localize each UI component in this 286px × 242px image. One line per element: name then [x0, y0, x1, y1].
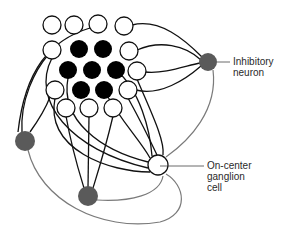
label-line: ganglion — [207, 171, 251, 182]
center-cell — [107, 61, 125, 79]
surround-cell — [43, 16, 61, 34]
surround-cell — [80, 99, 98, 117]
retina-circuit-diagram — [0, 0, 286, 242]
surround-cell — [46, 81, 64, 99]
label-line: cell — [207, 182, 251, 193]
label-line: On-center — [207, 160, 251, 171]
surround-cell — [89, 15, 107, 33]
surround-cell — [128, 62, 146, 80]
ganglion-cell-label: On-center ganglion cell — [207, 160, 251, 193]
center-cell — [70, 40, 88, 58]
inhibitory-neuron-bottom — [78, 186, 98, 206]
surround-cell — [115, 17, 133, 35]
on-center-ganglion-cell — [148, 155, 168, 175]
center-cell — [83, 61, 101, 79]
surround-cell — [120, 42, 138, 60]
center-cell — [72, 81, 90, 99]
leader-lines — [160, 62, 230, 166]
feedback-bottom-to-ganglion — [97, 176, 163, 200]
feedback-right-to-ganglion — [166, 70, 214, 157]
label-line: neuron — [233, 67, 274, 78]
center-cell — [59, 61, 77, 79]
surround-cell — [119, 81, 137, 99]
surround-cell — [57, 99, 75, 117]
surround-cell — [43, 41, 61, 59]
inhibitory-neuron-right — [199, 53, 217, 71]
label-line: Inhibitory — [233, 56, 274, 67]
center-cell — [94, 40, 112, 58]
surround-cell — [104, 99, 122, 117]
center-cell — [95, 81, 113, 99]
surround-cell — [65, 16, 83, 34]
center-photoreceptors — [59, 40, 125, 99]
inhibitory-neuron-label: Inhibitory neuron — [233, 56, 274, 78]
inhibitory-neuron-left — [15, 131, 35, 151]
